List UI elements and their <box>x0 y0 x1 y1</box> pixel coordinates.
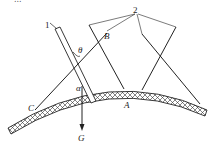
label-G: G <box>78 134 85 143</box>
leader-line-1 <box>50 23 57 29</box>
leader-line-2a <box>89 14 135 25</box>
label-theta: θ <box>78 46 82 55</box>
label-A: A <box>124 101 130 110</box>
label-1: 1 <box>45 21 50 30</box>
mechanics-diagram <box>0 0 218 145</box>
support-line-right-a <box>142 27 176 90</box>
leader-line-2c <box>137 14 142 34</box>
leader-line-2d <box>138 14 176 27</box>
label-2: 2 <box>133 6 138 15</box>
label-B: B <box>104 32 110 41</box>
leader-line-2b <box>107 14 135 31</box>
label-C: C <box>28 104 34 113</box>
curved-cable <box>8 91 207 134</box>
label-alpha: α <box>76 84 81 93</box>
